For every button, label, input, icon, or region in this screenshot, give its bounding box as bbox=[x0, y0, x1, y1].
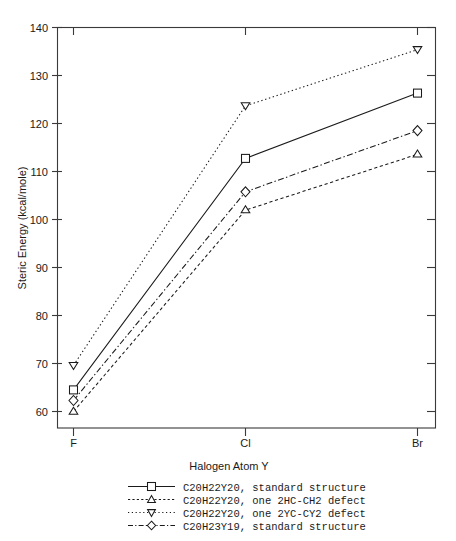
series-c20h22y20-standard-structure bbox=[70, 89, 422, 394]
x-axis-title: Halogen Atom Y bbox=[189, 460, 269, 472]
legend-marker-square bbox=[148, 483, 156, 491]
legend-label: C20H22Y20, one 2YC-CY2 defect bbox=[183, 508, 366, 520]
legend-entry-2[interactable]: C20H22Y20, one 2YC-CY2 defect bbox=[128, 508, 366, 520]
y-axis-tick-labels: 140 130 120 110 100 90 80 70 60 bbox=[30, 22, 48, 418]
marker-triangle-down bbox=[241, 103, 250, 110]
legend-label: C20H22Y20, one 2HC-CH2 defect bbox=[183, 495, 366, 507]
legend-entry-0[interactable]: C20H22Y20, standard structure bbox=[128, 482, 366, 494]
chart-figure: 140 130 120 110 100 90 80 70 60 F Cl Br … bbox=[0, 0, 456, 541]
chart-legend: C20H22Y20, standard structure C20H22Y20,… bbox=[128, 482, 366, 533]
legend-label: C20H22Y20, standard structure bbox=[183, 482, 366, 494]
marker-triangle-down bbox=[69, 362, 78, 369]
marker-triangle-up bbox=[413, 150, 422, 157]
x-axis-ticks bbox=[74, 28, 418, 437]
legend-entry-3[interactable]: C20H23Y19, standard structure bbox=[128, 521, 366, 533]
y-tick-label: 80 bbox=[36, 310, 48, 322]
marker-diamond bbox=[413, 126, 422, 136]
legend-entry-1[interactable]: C20H22Y20, one 2HC-CH2 defect bbox=[128, 495, 366, 507]
y-tick-label: 140 bbox=[30, 22, 48, 34]
series-c20h23y19-standard-structure bbox=[69, 126, 422, 406]
x-tick-label: Cl bbox=[240, 437, 250, 449]
marker-triangle-up bbox=[69, 407, 78, 414]
legend-label: C20H23Y19, standard structure bbox=[183, 521, 366, 533]
y-axis-ticks-right bbox=[427, 28, 436, 412]
plot-frame bbox=[58, 28, 436, 429]
x-axis-tick-labels: F Cl Br bbox=[70, 437, 423, 449]
y-axis-title: Steric Energy (kcal/mole) bbox=[16, 167, 28, 290]
y-tick-label: 120 bbox=[30, 118, 48, 130]
legend-marker-diamond bbox=[147, 521, 155, 530]
legend-marker-triangle-up bbox=[148, 496, 156, 503]
y-tick-label: 110 bbox=[30, 166, 48, 178]
series-line-solid bbox=[74, 93, 418, 390]
marker-square bbox=[242, 154, 250, 162]
x-tick-label: F bbox=[70, 437, 77, 449]
y-tick-label: 130 bbox=[30, 70, 48, 82]
y-tick-label: 90 bbox=[36, 262, 48, 274]
y-tick-label: 60 bbox=[36, 406, 48, 418]
x-tick-label: Br bbox=[412, 437, 423, 449]
marker-square bbox=[70, 386, 78, 394]
y-tick-label: 100 bbox=[30, 214, 48, 226]
legend-marker-triangle-down bbox=[148, 510, 156, 517]
marker-square bbox=[414, 89, 422, 97]
line-chart: 140 130 120 110 100 90 80 70 60 F Cl Br … bbox=[0, 0, 456, 541]
y-tick-label: 70 bbox=[36, 358, 48, 370]
